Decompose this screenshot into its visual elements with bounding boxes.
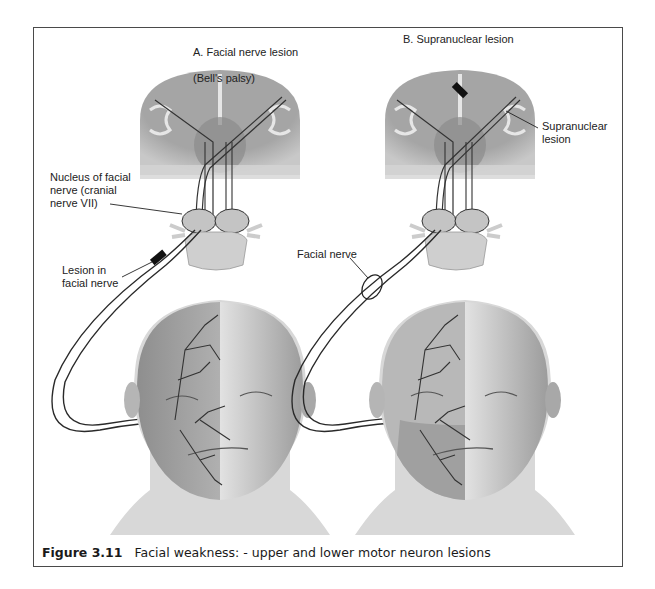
panel-a-title: A. Facial nerve lesion (Bell's palsy)	[193, 33, 298, 98]
panel-a-brain	[140, 70, 300, 270]
figure-caption-text: Facial weakness: - upper and lower motor…	[135, 545, 491, 560]
panel-b-face	[355, 300, 575, 535]
panel-a-title-line2: (Bell's palsy)	[193, 72, 298, 85]
panel-a-face	[110, 300, 330, 535]
panel-b-brain	[385, 70, 535, 270]
label-nucleus-of-facial-nerve: Nucleus of facial nerve (cranial nerve V…	[50, 171, 131, 210]
figure-caption: Figure 3.11Facial weakness: - upper and …	[42, 545, 491, 560]
label-lesion-in-facial-nerve: Lesion in facial nerve	[62, 264, 118, 290]
label-supranuclear-lesion: Supranuclear lesion	[542, 120, 607, 146]
panel-b-title: B. Supranuclear lesion	[403, 33, 514, 46]
label-facial-nerve: Facial nerve	[297, 248, 357, 261]
diagram-artwork	[0, 0, 655, 589]
figure-number: Figure 3.11	[42, 545, 123, 560]
panel-a-title-line1: A. Facial nerve lesion	[193, 46, 298, 59]
